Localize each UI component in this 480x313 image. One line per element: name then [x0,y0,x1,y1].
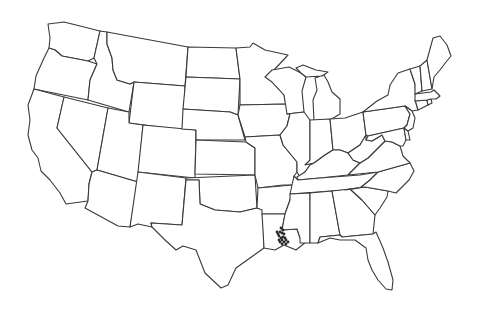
occurrence-point [285,239,288,242]
occurrence-point [276,231,279,234]
occurrence-point [285,243,288,246]
us-states-map [0,0,480,313]
state-kansas [195,140,255,175]
occurrence-point [283,233,286,236]
occurrence-point [279,241,282,244]
occurrence-point [278,235,281,238]
state-colorado [138,125,196,178]
state-north-dakota [186,47,240,79]
occurrence-point [281,239,284,242]
state-montana [107,32,188,86]
occurrence-point [280,227,283,230]
occurrence-point [282,229,285,232]
state-new-york [363,69,418,112]
state-new-mexico [130,172,186,227]
state-wyoming [129,82,185,130]
occurrence-point [281,243,284,246]
occurrence-point [283,241,286,244]
state-maine [427,36,451,89]
states-layer [28,22,451,290]
state-florida [318,232,393,290]
occurrence-point [287,241,290,244]
